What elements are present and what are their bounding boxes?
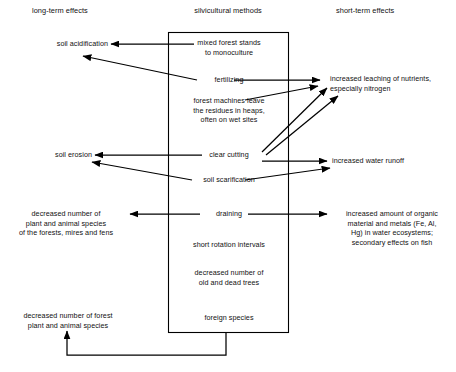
diagram-canvas: long-term effects silvicultural methods … [0,0,456,372]
method-forest-machines: forest machines leave the residues in he… [172,96,286,125]
column-header-long-term: long-term effects [32,6,142,16]
column-header-silvicultural: silvicultural methods [168,6,288,16]
method-decreased-old-dead-trees: decreased number of old and dead trees [172,268,286,287]
method-mixed-forest-stands: mixed forest stands to monoculture [176,38,282,57]
effect-soil-erosion: soil erosion [10,150,92,160]
effect-decreased-forest-species: decreased number of forest plant and ani… [4,311,132,330]
effect-increased-organic-material-metals: increased amount of organic material and… [330,209,454,247]
effect-increased-leaching-nutrients: increased leaching of nutrients, especia… [330,74,456,93]
method-clear-cutting: clear cutting [176,150,282,160]
column-header-short-term: short-term effects [336,6,456,16]
method-short-rotation-intervals: short rotation intervals [172,240,286,250]
method-draining: draining [176,209,282,219]
method-soil-scarification: soil scarification [176,175,282,185]
effect-soil-acidification: soil acidification [10,39,108,49]
arrow-foreignspecies-loop [67,331,226,355]
method-foreign-species: foreign species [172,313,286,323]
effect-increased-water-runoff: increased water runoff [332,156,452,166]
method-fertilizing: fertilizing [176,75,282,85]
effect-decreased-species-forests-mires-fens: decreased number of plant and animal spe… [4,209,128,238]
